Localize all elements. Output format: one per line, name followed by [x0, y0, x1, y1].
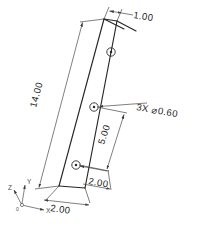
dimension-top-width	[104, 7, 133, 21]
hole-bottom	[72, 161, 80, 169]
axis-label-origin: 0	[16, 206, 19, 212]
axis-label-y: Y	[27, 178, 32, 185]
dimension-label-top-width: 1.00	[133, 9, 155, 23]
hole-middle	[90, 103, 98, 111]
dimension-label-hole-spacing: 5.00	[95, 123, 112, 146]
axis-label-z: Z	[8, 184, 12, 191]
dimension-label-bottom-width: 2.00	[50, 202, 71, 216]
hole-callout-label: 3X ⌀0.60	[136, 101, 179, 119]
part-outline	[59, 19, 136, 188]
dimension-overall-length	[35, 19, 104, 189]
axis-label-x: X	[46, 207, 51, 214]
dimension-label-hole-offset: 2.00	[88, 175, 110, 189]
dimension-label-overall-length: 14.00	[27, 81, 44, 109]
engineering-drawing-canvas: 1.00 14.00 3X ⌀0.60 5.00	[0, 0, 200, 225]
